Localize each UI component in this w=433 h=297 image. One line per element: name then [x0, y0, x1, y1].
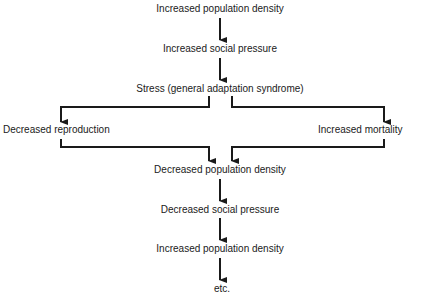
node-etc: etc. [214, 283, 230, 295]
node-decreased-social-pressure: Decreased social pressure [161, 204, 279, 216]
node-decreased-reproduction: Decreased reproduction [3, 124, 110, 136]
node-increased-population-density: Increased population density [156, 3, 283, 15]
node-stress: Stress (general adaptation syndrome) [136, 83, 303, 95]
merge-right-connector [232, 139, 384, 161]
branch-right-connector [232, 96, 384, 122]
node-increased-social-pressure: Increased social pressure [163, 43, 277, 55]
merge-left-connector [61, 139, 209, 161]
branch-left-connector [61, 96, 209, 122]
node-increased-population-density-2: Increased population density [156, 243, 283, 255]
node-increased-mortality: Increased mortality [318, 124, 402, 136]
node-decreased-population-density: Decreased population density [154, 164, 286, 176]
